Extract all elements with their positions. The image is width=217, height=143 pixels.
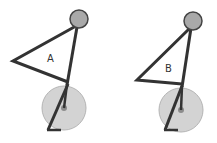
vertical-bar-a (67, 27, 77, 85)
diagram-canvas: A B (0, 0, 217, 143)
vertical-bar-b (182, 28, 191, 87)
figure-a: A (13, 10, 88, 130)
label-a: A (47, 53, 54, 64)
figure-b: B (137, 12, 203, 132)
head-a (70, 10, 88, 28)
label-b: B (165, 63, 172, 74)
triangle-b (137, 28, 190, 84)
triangle-a (13, 26, 76, 82)
head-b (184, 12, 202, 30)
